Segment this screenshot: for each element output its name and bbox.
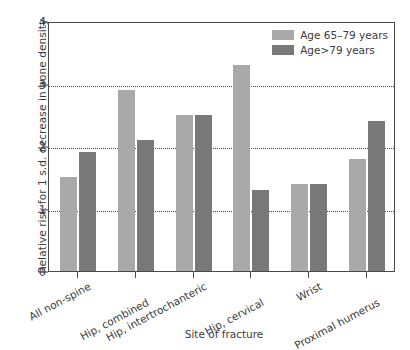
bar [252,190,269,271]
x-tick-mark [135,272,136,278]
x-axis-title: Site of fracture [0,328,410,340]
y-tick-label: 3 [0,78,46,92]
bar [195,115,212,271]
legend-swatch-icon [272,45,294,55]
x-category-label: Wrist [295,280,324,303]
x-category-label: All non-spine [27,280,93,323]
y-tick-label: 4 [0,15,46,29]
y-tick-label: 2 [0,140,46,154]
x-category-label: Proximal humerus [292,296,381,350]
bar-chart-figure: Relative risk for 1 s.d. decrease in bon… [0,0,410,350]
y-tick-label: 1 [0,203,46,217]
legend-swatch-icon [272,30,294,40]
x-tick-mark [366,272,367,278]
legend: Age 65–79 years Age>79 years [272,29,388,56]
x-tick-mark [77,272,78,278]
gridline [49,148,394,149]
bar [291,184,308,272]
bar [176,115,193,271]
bar [137,140,154,271]
legend-label: Age 65–79 years [300,29,388,41]
gridline [49,86,394,87]
x-tick-mark [250,272,251,278]
bar [118,90,135,271]
bar [310,184,327,272]
bar [79,152,96,271]
legend-item: Age 65–79 years [272,29,388,41]
y-tick-label: 0 [0,265,46,279]
bar [368,121,385,271]
gridline [49,211,394,212]
bar [60,177,77,271]
bar [233,65,250,271]
x-tick-mark [308,272,309,278]
legend-item: Age>79 years [272,44,388,56]
bar [349,159,366,272]
legend-label: Age>79 years [300,44,375,56]
x-tick-mark [193,272,194,278]
plot-area: Age 65–79 years Age>79 years [48,22,395,272]
